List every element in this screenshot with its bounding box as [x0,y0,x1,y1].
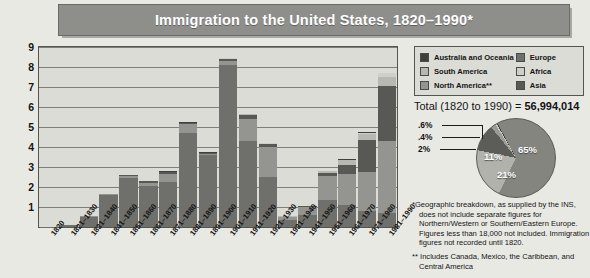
y-tick-label: 6 [10,101,34,113]
bar-segment [219,65,237,227]
infographic-root: Immigration to the United States, 1820–1… [0,0,590,278]
legend-item: Australia and Oceania [420,51,514,63]
legend-item: Europe [516,51,588,63]
bar-segment [378,77,396,86]
pie-leader-1b [482,125,483,139]
legend-item: North America** [420,79,514,91]
legend-label: Africa [530,67,552,76]
legend-swatch [516,67,525,76]
bar [219,58,237,227]
legend-item: South America [420,65,514,77]
legend-item: Asia [516,79,588,91]
total-prefix: Total (1820 to 1990) = [414,100,524,112]
bar-segment [159,174,177,182]
legend-swatch [420,53,429,62]
bar-series-group [39,47,397,227]
bar-segment [259,147,277,177]
bar-segment [338,174,356,205]
legend-label: South America [434,67,487,76]
y-tick-label: 8 [10,61,34,73]
legend-label: North America** [434,81,492,90]
y-tick-label: 1 [10,201,34,213]
y-tick-label: 7 [10,81,34,93]
footnote-asterisk: *Geographic breakdown, as supplied by th… [412,200,590,248]
page-title: Immigration to the United States, 1820–1… [155,12,473,28]
legend-swatch [516,81,525,90]
bar-segment [338,165,356,174]
bar-segment [378,86,396,141]
legend-swatch [420,81,429,90]
footnotes: *Geographic breakdown, as supplied by th… [412,200,590,275]
title-banner: Immigration to the United States, 1820–1… [58,4,570,36]
pie-leader-1 [442,125,482,126]
legend-label: Europe [530,53,556,62]
bar-segment [179,124,197,133]
y-tick-label: 3 [10,161,34,173]
pie-label-australia: .4% [418,132,432,142]
bar-segment [239,119,257,141]
bar-segment [378,141,396,213]
legend: Australia and OceaniaEuropeSouth America… [414,46,584,96]
plot-area [38,46,398,228]
legend-swatch [516,53,525,62]
y-tick-label: 4 [10,141,34,153]
legend-label: Asia [530,81,546,90]
pie-leader-3 [440,149,476,150]
x-axis-labels: 18201821–18301831–18401841–18501851–1860… [38,232,398,278]
bar-segment [318,176,336,200]
pie-chart-panel: .6% .4% 2% 65% 21% 11% [414,118,590,198]
pie-label-africa: .6% [418,120,432,130]
footnote-double-asterisk: ** Includes Canada, Mexico, the Caribbea… [412,252,590,271]
bar-chart-panel: Millions 123456789 18201821–18301831–184… [8,42,402,274]
y-tick-label: 2 [10,181,34,193]
total-line: Total (1820 to 1990) = 56,994,014 [414,100,590,112]
pie-label-south-america: 2% [418,144,430,154]
y-tick-label: 5 [10,121,34,133]
total-value: 56,994,014 [524,100,579,112]
pie-label-asia: 11% [484,151,503,162]
pie-label-north-america: 21% [497,169,516,180]
y-tick-label: 9 [10,41,34,53]
legend-label: Australia and Oceania [434,53,514,62]
pie-label-europe: 65% [518,144,537,155]
bar-segment [358,140,376,172]
y-axis-ticks: 123456789 [8,46,34,228]
legend-swatch [420,67,429,76]
pie-leader-2 [442,137,480,138]
legend-item: Africa [516,65,588,77]
